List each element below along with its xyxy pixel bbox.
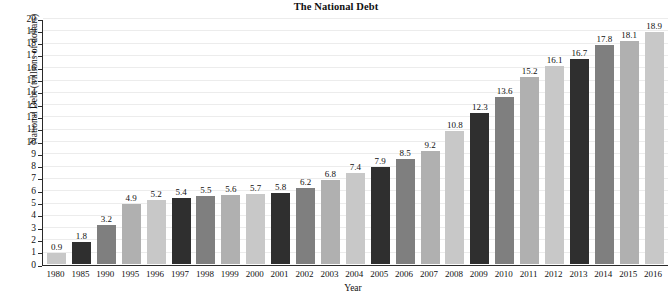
bar-value-label: 5.6 <box>225 184 236 194</box>
x-tick-label: 2007 <box>416 268 442 280</box>
bar-value-label: 5.7 <box>250 183 261 193</box>
bar[interactable]: 17.8 <box>595 18 614 264</box>
y-tick-label: 13 <box>27 100 37 111</box>
y-tick-label: 11 <box>27 124 36 135</box>
bar-rect <box>147 200 166 264</box>
bar[interactable]: 16.1 <box>545 18 564 264</box>
x-tick-label: 1999 <box>217 268 243 280</box>
bar-value-label: 7.9 <box>375 156 386 166</box>
x-tick-label: 2011 <box>516 268 542 280</box>
bar-value-label: 5.2 <box>150 189 161 199</box>
bar-value-label: 0.9 <box>51 242 62 252</box>
bar-rect <box>421 151 440 264</box>
x-tick-label: 2008 <box>441 268 467 280</box>
y-tick-label: 9 <box>31 149 36 160</box>
bar[interactable]: 16.7 <box>570 18 589 264</box>
y-tick-label: 4 <box>31 210 36 221</box>
x-tick-label: 2005 <box>366 268 392 280</box>
bar[interactable]: 0.9 <box>47 18 66 264</box>
bar-rect <box>97 225 116 264</box>
bar[interactable]: 7.4 <box>346 18 365 264</box>
y-tick-label: 19 <box>27 26 37 37</box>
bar-rect <box>470 113 489 264</box>
plot-area: 0.91.83.24.95.25.45.55.65.75.86.26.87.47… <box>42 20 668 266</box>
y-tick-label: 1 <box>31 247 36 258</box>
bar-rect <box>271 193 290 264</box>
bar[interactable]: 18.1 <box>620 18 639 264</box>
y-tick-label: 20 <box>27 14 37 25</box>
bar[interactable]: 12.3 <box>470 18 489 264</box>
bar-value-label: 5.4 <box>175 187 186 197</box>
x-tick-label: 2013 <box>565 268 591 280</box>
bar-value-label: 16.1 <box>547 55 563 65</box>
bar[interactable]: 5.5 <box>196 18 215 264</box>
bar-rect <box>346 173 365 264</box>
bar-rect <box>545 66 564 264</box>
bar-rect <box>520 77 539 264</box>
x-axis-label: Year <box>42 283 664 293</box>
y-tick-label: 3 <box>31 223 36 234</box>
bar[interactable]: 5.7 <box>246 18 265 264</box>
bars-group: 0.91.83.24.95.25.45.55.65.75.86.26.87.47… <box>44 20 668 264</box>
x-tick-label: 1980 <box>43 268 69 280</box>
bar-rect <box>321 180 340 264</box>
bar-value-label: 1.8 <box>76 231 87 241</box>
bar[interactable]: 8.5 <box>396 18 415 264</box>
bar-rect <box>47 253 66 264</box>
bar-value-label: 18.1 <box>621 30 637 40</box>
y-tick-label: 8 <box>31 161 36 172</box>
bar-value-label: 6.2 <box>300 177 311 187</box>
bar-rect <box>645 32 664 264</box>
bar-value-label: 6.8 <box>325 169 336 179</box>
x-tick-label: 2009 <box>466 268 492 280</box>
x-tick-label: 2006 <box>391 268 417 280</box>
bar[interactable]: 18.9 <box>645 18 664 264</box>
bar[interactable]: 9.2 <box>421 18 440 264</box>
bar-value-label: 4.9 <box>126 193 137 203</box>
bar[interactable]: 5.6 <box>221 18 240 264</box>
bar-value-label: 12.3 <box>472 102 488 112</box>
bar[interactable]: 6.8 <box>321 18 340 264</box>
chart-title: The National Debt <box>0 1 672 12</box>
bar-chart: The National Debt National Debt (trillio… <box>0 0 672 301</box>
x-tick-label: 2003 <box>316 268 342 280</box>
bar-value-label: 9.2 <box>424 140 435 150</box>
bar-value-label: 5.5 <box>200 185 211 195</box>
bar-rect <box>495 97 514 264</box>
x-tick-label: 1997 <box>167 268 193 280</box>
y-tick-label: 7 <box>31 173 36 184</box>
bar[interactable]: 4.9 <box>122 18 141 264</box>
y-tick-label: 2 <box>31 235 36 246</box>
bar-rect <box>172 198 191 264</box>
bar[interactable]: 5.8 <box>271 18 290 264</box>
bar[interactable]: 10.8 <box>445 18 464 264</box>
bar[interactable]: 6.2 <box>296 18 315 264</box>
bar[interactable]: 13.6 <box>495 18 514 264</box>
bar-rect <box>371 167 390 264</box>
bar-rect <box>72 242 91 264</box>
y-tick-label: 14 <box>27 87 37 98</box>
y-tick-label: 15 <box>27 75 37 86</box>
x-tick-label: 2012 <box>541 268 567 280</box>
bar[interactable]: 5.2 <box>147 18 166 264</box>
y-tick-label: 16 <box>27 63 37 74</box>
bar-rect <box>570 59 589 264</box>
bar-value-label: 16.7 <box>572 48 588 58</box>
y-tick-label: 18 <box>27 38 37 49</box>
x-tick-label: 2010 <box>491 268 517 280</box>
bar-rect <box>445 131 464 264</box>
bar[interactable]: 7.9 <box>371 18 390 264</box>
bar[interactable]: 5.4 <box>172 18 191 264</box>
x-tick-label: 2001 <box>267 268 293 280</box>
bar[interactable]: 1.8 <box>72 18 91 264</box>
bar-value-label: 8.5 <box>399 148 410 158</box>
bar-rect <box>595 45 614 264</box>
bar-value-label: 5.8 <box>275 182 286 192</box>
x-tick-label: 2000 <box>242 268 268 280</box>
x-tick-label: 2015 <box>615 268 641 280</box>
y-tick-label: 12 <box>27 112 37 123</box>
bar[interactable]: 15.2 <box>520 18 539 264</box>
bar-rect <box>620 41 639 264</box>
bar-value-label: 3.2 <box>101 214 112 224</box>
bar[interactable]: 3.2 <box>97 18 116 264</box>
